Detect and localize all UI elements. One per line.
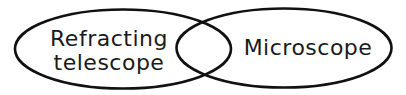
left-set-label-line-2: telescope	[40, 51, 178, 75]
right-set-label: Microscope	[236, 36, 380, 60]
left-set-label: Refracting telescope	[40, 27, 178, 75]
right-set-label-line-1: Microscope	[236, 36, 380, 60]
venn-diagram: Refracting telescope Microscope	[0, 0, 406, 95]
left-set-label-line-1: Refracting	[40, 27, 178, 51]
